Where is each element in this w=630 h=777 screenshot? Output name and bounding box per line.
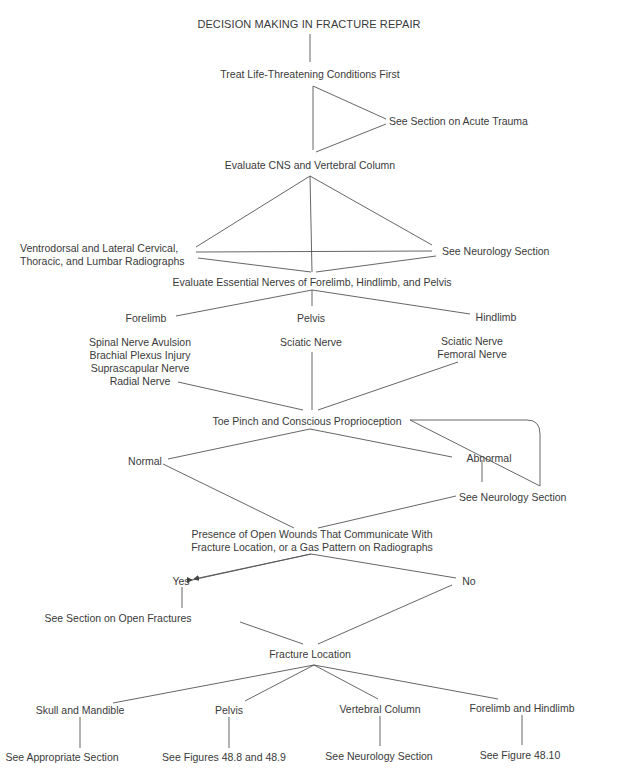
node-fracture-location: Fracture Location (269, 648, 351, 661)
node-normal: Normal (128, 455, 162, 468)
location-vertebral-column: Vertebral Column (339, 703, 420, 716)
diagram-title: DECISION MAKING IN FRACTURE REPAIR (197, 18, 420, 31)
outcome-appropriate-section: See Appropriate Section (5, 751, 118, 764)
open-wounds-line-1: Presence of Open Wounds That Communicate… (191, 528, 433, 541)
node-evaluate-nerves: Evaluate Essential Nerves of Forelimb, H… (173, 276, 452, 289)
node-open-wounds: Presence of Open Wounds That Communicate… (191, 528, 433, 554)
node-neurology-section-1: See Neurology Section (442, 245, 549, 258)
location-pelvis: Pelvis (215, 704, 243, 717)
node-open-fractures: See Section on Open Fractures (44, 612, 191, 625)
node-forelimb-nerves: Spinal Nerve Avulsion Brachial Plexus In… (89, 336, 191, 388)
outcome-neurology-section: See Neurology Section (325, 750, 432, 763)
forelimb-nerve: Suprascapular Nerve (89, 362, 191, 375)
open-wounds-line-2: Fracture Location, or a Gas Pattern on R… (191, 541, 433, 554)
node-abnormal: Abnormal (467, 452, 512, 465)
forelimb-nerve: Radial Nerve (89, 375, 191, 388)
node-radiographs: Ventrodorsal and Lateral Cervical, Thora… (20, 242, 185, 268)
outcome-figure-48-10: See Figure 48.10 (480, 749, 561, 762)
node-yes: Yes (172, 575, 189, 588)
hindlimb-nerve: Femoral Nerve (437, 348, 506, 361)
location-forelimb-hindlimb: Forelimb and Hindlimb (469, 702, 574, 715)
node-acute-trauma: See Section on Acute Trauma (389, 115, 528, 128)
outcome-figures-48-8-48-9: See Figures 48.8 and 48.9 (162, 751, 286, 764)
node-no: No (462, 575, 475, 588)
node-evaluate-cns: Evaluate CNS and Vertebral Column (225, 159, 395, 172)
location-skull-mandible: Skull and Mandible (36, 704, 125, 717)
node-forelimb: Forelimb (126, 312, 167, 325)
radiographs-line-1: Ventrodorsal and Lateral Cervical, (20, 242, 185, 255)
node-life-threatening: Treat Life-Threatening Conditions First (220, 68, 399, 81)
forelimb-nerve: Spinal Nerve Avulsion (89, 336, 191, 349)
node-toe-pinch: Toe Pinch and Conscious Proprioception (212, 415, 401, 428)
node-neurology-section-2: See Neurology Section (459, 491, 566, 504)
hindlimb-nerve: Sciatic Nerve (437, 335, 506, 348)
node-hindlimb: Hindlimb (476, 311, 517, 324)
pelvis-nerve: Sciatic Nerve (280, 336, 342, 349)
node-pelvis-nerves: Sciatic Nerve (280, 336, 342, 349)
node-pelvis: Pelvis (297, 312, 325, 325)
node-hindlimb-nerves: Sciatic Nerve Femoral Nerve (437, 335, 506, 361)
radiographs-line-2: Thoracic, and Lumbar Radiographs (20, 255, 185, 268)
forelimb-nerve: Brachial Plexus Injury (89, 349, 191, 362)
